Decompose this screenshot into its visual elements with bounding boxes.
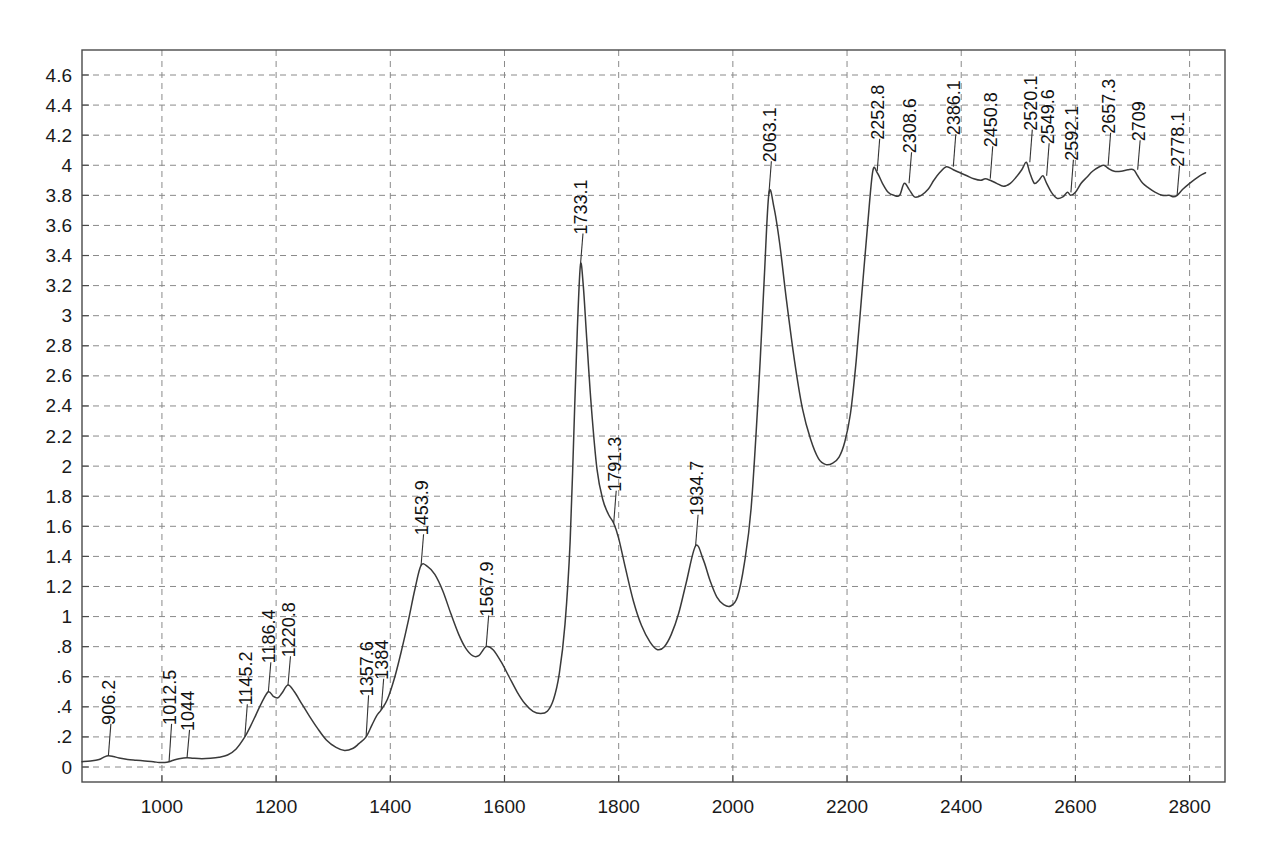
peak-leader-line	[953, 134, 956, 167]
annotation-layer: 906.21012.510441145.21186.41220.81357.61…	[99, 76, 1188, 762]
y-axis-tick-label: 0	[61, 757, 72, 778]
tick-label-layer: 0.2.4.6.811.21.41.61.822.22.42.62.833.23…	[46, 65, 1211, 818]
peak-label: 1186.4	[259, 609, 279, 663]
ir-spectrum-chart: 0.2.4.6.811.21.41.61.822.22.42.62.833.23…	[0, 0, 1278, 854]
peak-leader-line	[990, 146, 993, 179]
y-axis-tick-label: 3.8	[46, 185, 72, 206]
peak-leader-line	[1108, 133, 1111, 166]
peak-label: 2386.1	[944, 80, 964, 135]
x-axis-tick-label: 2000	[712, 796, 754, 817]
y-axis-tick-label: 4.2	[46, 125, 72, 146]
peak-label: 2778.1	[1168, 112, 1188, 167]
y-axis-tick-label: 1.2	[46, 576, 72, 597]
peak-label: 2450.8	[981, 92, 1001, 147]
x-axis-tick-label: 1600	[483, 796, 525, 817]
x-axis-tick-label: 2400	[940, 796, 982, 817]
y-axis-tick-label: 1.6	[46, 516, 72, 537]
x-axis-tick-label: 1000	[141, 796, 183, 817]
y-axis-tick-label: 2.8	[46, 335, 72, 356]
y-axis-tick-label: 2.6	[46, 365, 72, 386]
peak-label: 906.2	[99, 680, 119, 725]
peak-leader-line	[108, 724, 111, 756]
y-axis-tick-label: 1	[61, 606, 72, 627]
peak-leader-line	[366, 695, 369, 737]
x-axis-tick-label: 2200	[826, 796, 868, 817]
y-axis-tick-label: 2.4	[46, 395, 73, 416]
y-axis-tick-label: .2	[56, 726, 72, 747]
y-axis-tick-label: 3.2	[46, 275, 72, 296]
y-axis-tick-label: .6	[56, 666, 72, 687]
peak-label: 1044	[178, 691, 198, 731]
peak-label: 1733.1	[571, 179, 591, 234]
y-axis-tick-label: .4	[56, 696, 72, 717]
peak-leader-line	[486, 616, 489, 647]
peak-leader-line	[909, 152, 912, 183]
peak-label: 1145.2	[236, 652, 256, 706]
peak-leader-line	[421, 534, 424, 565]
peak-leader-line	[1047, 143, 1050, 176]
peak-leader-line	[1071, 160, 1074, 193]
y-axis-tick-label: 2.2	[46, 426, 72, 447]
peak-label: 1791.3	[605, 437, 625, 492]
peak-leader-line	[769, 161, 772, 194]
peak-label: 2252.8	[868, 85, 888, 140]
x-axis-tick-label: 2600	[1054, 796, 1096, 817]
peak-leader-line	[877, 139, 880, 172]
x-axis-tick-label: 2800	[1168, 796, 1210, 817]
peak-leader-line	[169, 724, 172, 762]
y-axis-tick-label: 3.4	[46, 245, 73, 266]
x-axis-tick-label: 1200	[255, 796, 297, 817]
chart-canvas: 0.2.4.6.811.21.41.61.822.22.42.62.833.23…	[0, 0, 1278, 854]
peak-label: 1220.8	[279, 602, 299, 657]
peak-label: 1567.9	[477, 562, 497, 617]
peak-leader-line	[614, 491, 617, 524]
peak-label: 1934.7	[687, 461, 707, 516]
peak-leader-line	[381, 679, 384, 710]
y-axis-tick-label: 4.4	[46, 95, 73, 116]
peak-label: 2657.3	[1099, 79, 1119, 134]
peak-label: 2592.1	[1062, 106, 1082, 161]
peak-leader-line	[696, 515, 699, 546]
peak-leader-line	[580, 233, 583, 264]
x-axis-tick-label: 1400	[369, 796, 411, 817]
y-axis-tick-label: .8	[56, 636, 72, 657]
peak-label: 2063.1	[760, 107, 780, 162]
peak-label: 1384	[372, 640, 392, 680]
y-axis-tick-label: 3.6	[46, 215, 72, 236]
peak-label: 2308.6	[900, 98, 920, 153]
y-axis-tick-label: 1.8	[46, 486, 72, 507]
y-axis-tick-label: 3	[61, 305, 72, 326]
peak-leader-line	[1177, 166, 1180, 196]
peak-leader-line	[187, 730, 190, 758]
y-axis-tick-label: 4.6	[46, 65, 72, 86]
y-axis-tick-label: 1.4	[46, 546, 73, 567]
x-axis-tick-label: 1800	[598, 796, 640, 817]
y-axis-tick-label: 2	[61, 456, 72, 477]
peak-label: 1453.9	[412, 480, 432, 535]
peak-label: 2549.6	[1038, 89, 1058, 144]
peak-leader-line	[1030, 130, 1033, 163]
y-axis-tick-label: 4	[61, 155, 72, 176]
peak-leader-line	[288, 656, 291, 685]
peak-label: 2709	[1129, 101, 1149, 141]
